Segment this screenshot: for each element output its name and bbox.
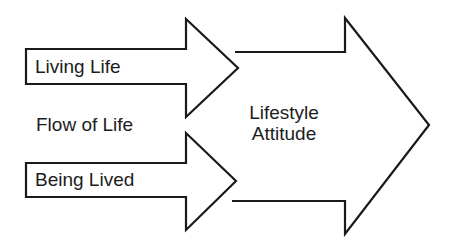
flow-of-life-label: Flow of Life (36, 114, 133, 135)
input-label-being-lived: Being Lived (35, 169, 134, 190)
target-label-lifestyle-attitude: Lifestyle Attitude (236, 102, 332, 144)
target-label-line-1: Lifestyle (236, 102, 332, 123)
target-label-line-2: Attitude (236, 123, 332, 144)
lifestyle-flow-diagram: Living Life Flow of Life Being Lived Lif… (0, 0, 453, 252)
input-label-living-life: Living Life (35, 56, 121, 77)
